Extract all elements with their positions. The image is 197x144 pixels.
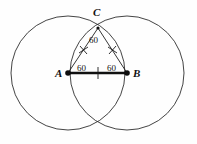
angle-label-at-C: 60 (89, 36, 98, 45)
point-label-C: C (93, 7, 100, 18)
geometry-figure: A B C 60 60 60 (0, 0, 197, 144)
construction-canvas (0, 0, 197, 144)
vertex-dot-C (96, 26, 99, 29)
point-label-A: A (55, 68, 62, 79)
vertex-dot-B (124, 70, 130, 76)
vertex-dot-A (65, 70, 71, 76)
tick-on-AC (79, 46, 88, 54)
point-label-B: B (133, 68, 140, 79)
angle-label-at-B: 60 (107, 64, 116, 73)
tick-on-BC (108, 46, 117, 54)
angle-label-at-A: 60 (77, 64, 86, 73)
